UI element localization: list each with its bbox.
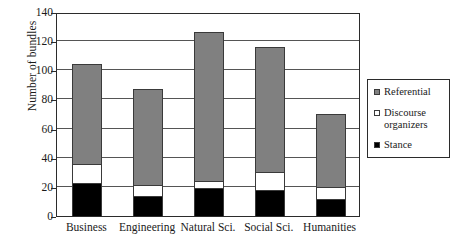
x-axis-tick-label: Engineering xyxy=(119,221,175,233)
bar-segment-stance xyxy=(133,196,163,216)
bar-segment-stance xyxy=(72,183,102,217)
bar-stack xyxy=(133,89,163,216)
legend-entry-label: Stance xyxy=(384,139,412,151)
bar-stack xyxy=(316,114,346,216)
x-axis-tick-label: Humanities xyxy=(303,221,356,233)
bar-segment-stance xyxy=(194,188,224,216)
bar-segment-discourse-organizers xyxy=(194,181,224,188)
legend-entry-label: Referential xyxy=(384,86,431,98)
x-axis-tick-label: Social Sci. xyxy=(244,221,293,233)
bar-segment-referential xyxy=(255,47,285,172)
legend-entry: Referential xyxy=(374,86,444,98)
y-axis-tick-label: 100 xyxy=(19,65,53,77)
y-axis-tick-label: 40 xyxy=(19,153,53,165)
y-axis-tick-mark xyxy=(51,217,56,218)
y-axis-tick-label: 20 xyxy=(19,182,53,194)
legend-entry: Discourse organizers xyxy=(374,107,444,131)
plot-area xyxy=(56,13,360,217)
bar-segment-discourse-organizers xyxy=(133,185,163,195)
bar-segment-referential xyxy=(72,64,102,163)
y-axis-tick-label: 120 xyxy=(19,36,53,48)
y-axis-tick-label: 140 xyxy=(19,7,53,19)
bar-segment-discourse-organizers xyxy=(316,187,346,199)
x-axis-tick-label: Business xyxy=(66,221,107,233)
x-axis-tick-label: Natural Sci. xyxy=(181,221,236,233)
bar-segment-discourse-organizers xyxy=(255,172,285,189)
y-axis-tick-label: 80 xyxy=(19,94,53,106)
bar-segment-referential xyxy=(133,89,163,185)
bar-stack xyxy=(194,32,224,216)
bar-segment-discourse-organizers xyxy=(72,164,102,183)
legend-swatch-stance xyxy=(374,142,380,148)
bar-segment-stance xyxy=(316,199,346,216)
legend-swatch-discourse-organizers xyxy=(374,110,380,116)
legend-swatch-referential xyxy=(374,89,380,95)
y-axis-tick-label: 60 xyxy=(19,124,53,136)
bar-segment-referential xyxy=(194,32,224,181)
bar-segment-referential xyxy=(316,114,346,187)
legend-entry: Stance xyxy=(374,139,444,151)
stacked-bar-chart-figure: Number of bundles 020406080100120140 Bus… xyxy=(0,0,454,244)
legend-entry-label: Discourse organizers xyxy=(384,107,444,131)
y-axis-tick-label: 0 xyxy=(19,211,53,223)
bar-stack xyxy=(255,47,285,216)
chart-legend: ReferentialDiscourse organizersStance xyxy=(367,79,450,158)
bar-stack xyxy=(72,64,102,216)
bar-segment-stance xyxy=(255,190,285,216)
